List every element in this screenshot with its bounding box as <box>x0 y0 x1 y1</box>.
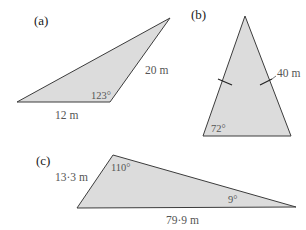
part-label-b: (b) <box>191 7 206 22</box>
angle-label-110: 110° <box>111 162 131 173</box>
side-label-40m: 40 m <box>277 67 300 79</box>
part-label-a: (a) <box>34 13 48 28</box>
triangle-c <box>77 155 296 208</box>
angle-label-72: 72° <box>211 123 226 134</box>
angle-label-123: 123° <box>91 90 111 101</box>
leader-line <box>272 76 276 79</box>
figure-c: (c) 13·3 m 79·9 m 110° 9° <box>36 153 296 226</box>
triangle-diagrams: (a) 20 m 12 m 123° (b) 40 m 72° (c) 13·3… <box>0 0 306 230</box>
side-label-20m: 20 m <box>145 64 168 76</box>
figure-b: (b) 40 m 72° <box>191 7 300 136</box>
side-label-13-3m: 13·3 m <box>55 171 88 183</box>
part-label-c: (c) <box>36 153 50 168</box>
side-label-79-9m: 79·9 m <box>166 214 199 226</box>
figure-a: (a) 20 m 12 m 123° <box>17 13 170 121</box>
angle-label-9: 9° <box>228 194 237 205</box>
side-label-12m: 12 m <box>55 109 78 121</box>
